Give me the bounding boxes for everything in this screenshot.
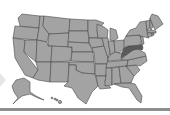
state-new-mexico[interactable] <box>50 62 69 82</box>
state-connecticut[interactable] <box>147 33 152 37</box>
state-michigan[interactable] <box>110 28 118 41</box>
state-vermont[interactable] <box>146 20 150 30</box>
state-mississippi[interactable] <box>105 68 112 86</box>
state-alaska[interactable] <box>12 78 44 104</box>
state-hawaii[interactable] <box>51 97 62 104</box>
us-map <box>0 0 170 115</box>
state-arkansas[interactable] <box>95 64 107 76</box>
state-washington[interactable] <box>18 14 40 28</box>
state-rhode-island[interactable] <box>152 33 154 36</box>
state-wisconsin[interactable] <box>97 24 108 40</box>
state-oregon[interactable] <box>13 26 39 40</box>
state-massachusetts[interactable] <box>147 30 156 33</box>
state-south-dakota[interactable] <box>68 31 89 43</box>
state-colorado[interactable] <box>51 46 72 62</box>
state-florida[interactable] <box>114 83 142 103</box>
state-new-york[interactable] <box>126 21 149 38</box>
footer-bar <box>0 108 170 111</box>
state-north-dakota[interactable] <box>69 19 88 31</box>
state-kansas[interactable] <box>71 52 94 62</box>
state-wyoming[interactable] <box>48 33 69 47</box>
state-montana[interactable] <box>43 16 70 34</box>
